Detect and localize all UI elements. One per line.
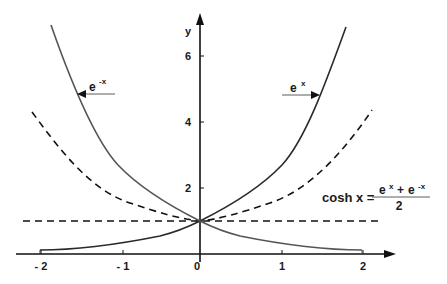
- formula-e1: e: [379, 183, 386, 197]
- series-exp-neg: [51, 25, 362, 250]
- ex-label-base: e: [290, 81, 297, 95]
- x-tick-label: - 1: [117, 260, 130, 272]
- y-axis: y 6 4 2: [185, 13, 204, 262]
- x-tick-label: 1: [279, 260, 285, 272]
- emx-label-base: e: [89, 80, 96, 94]
- y-axis-label: y: [185, 25, 192, 37]
- series-cosh: [32, 110, 372, 221]
- cosh-formula: cosh x = e x + e -x 2: [322, 182, 430, 213]
- chart-container: - 2 - 1 0 1 2 y 6 4 2 e -x e x: [0, 0, 447, 284]
- annotation-exp: e x: [282, 79, 320, 99]
- formula-exp1: x: [389, 182, 394, 191]
- y-axis-arrow-icon: [196, 13, 204, 25]
- emx-label-exponent: -x: [99, 77, 107, 86]
- cosh-chart: - 2 - 1 0 1 2 y 6 4 2 e -x e x: [0, 0, 447, 284]
- ex-label-exponent: x: [301, 79, 306, 88]
- x-tick-label: 0: [194, 260, 200, 272]
- x-axis: - 2 - 1 0 1 2: [16, 250, 396, 272]
- y-tick-label: 2: [185, 182, 191, 194]
- formula-exp2: -x: [418, 182, 426, 191]
- annotation-exp-neg: e -x: [77, 77, 115, 98]
- x-tick-label: 2: [360, 260, 366, 272]
- y-tick-label: 4: [185, 116, 192, 128]
- formula-e2: e: [408, 183, 415, 197]
- x-axis-arrow-icon: [384, 250, 396, 258]
- formula-denominator: 2: [396, 199, 403, 213]
- formula-lhs: cosh x =: [322, 190, 375, 205]
- formula-plus: +: [397, 183, 404, 197]
- y-tick-label: 6: [185, 50, 191, 62]
- x-tick-label: - 2: [35, 260, 48, 272]
